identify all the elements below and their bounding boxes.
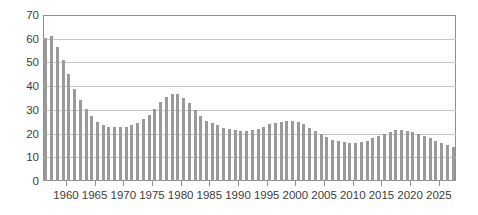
bar-2008 <box>343 142 346 181</box>
bar-1962 <box>79 100 82 181</box>
x-tick-1995 <box>267 181 268 186</box>
y-tick-label-60: 60 <box>5 32 39 46</box>
x-tick-2000 <box>295 181 296 186</box>
plot-area: 1960196519701975198019851990199520002005… <box>43 15 456 181</box>
bar-1963 <box>85 109 88 181</box>
bar-2009 <box>348 143 351 181</box>
x-tick-1970 <box>123 181 124 186</box>
x-tick-1985 <box>209 181 210 186</box>
y-tick-label-40: 40 <box>5 79 39 93</box>
x-tick-1975 <box>152 181 153 186</box>
bar-1990 <box>239 131 242 181</box>
bar-1987 <box>222 128 225 181</box>
bar-1981 <box>188 103 191 181</box>
bar-chart: 1960196519701975198019851990199520002005… <box>0 0 478 215</box>
bar-2019 <box>406 131 409 181</box>
x-tick-label-1960: 1960 <box>53 189 79 201</box>
bar-1961 <box>73 89 76 182</box>
bar-2001 <box>302 124 305 181</box>
gridline-40 <box>43 86 456 87</box>
bar-1999 <box>291 121 294 182</box>
bar-2022 <box>423 136 426 181</box>
gridline-30 <box>43 110 456 111</box>
x-tick-label-1985: 1985 <box>197 189 223 201</box>
bar-2005 <box>325 137 328 181</box>
y-tick-label-50: 50 <box>5 55 39 69</box>
bar-1970 <box>125 127 128 182</box>
bar-2018 <box>400 130 403 181</box>
bar-1998 <box>285 121 288 182</box>
bar-2026 <box>446 145 449 181</box>
bar-1959 <box>62 60 65 181</box>
x-tick-1965 <box>95 181 96 186</box>
bar-2011 <box>360 142 363 181</box>
x-tick-2025 <box>439 181 440 186</box>
x-tick-label-2005: 2005 <box>311 189 337 201</box>
bar-2012 <box>366 141 369 181</box>
bar-1982 <box>194 110 197 181</box>
x-tick-label-2020: 2020 <box>397 189 423 201</box>
x-tick-label-2000: 2000 <box>283 189 309 201</box>
bar-2003 <box>314 131 317 181</box>
bar-1985 <box>211 123 214 181</box>
bar-1971 <box>130 125 133 181</box>
bar-2027 <box>452 147 455 181</box>
bar-2016 <box>389 132 392 181</box>
x-tick-1960 <box>66 181 67 186</box>
bar-2015 <box>383 134 386 181</box>
bar-1964 <box>90 116 93 181</box>
x-tick-2020 <box>410 181 411 186</box>
y-tick-label-30: 30 <box>5 103 39 117</box>
bar-2010 <box>354 143 357 181</box>
bar-1993 <box>257 129 260 181</box>
bar-1972 <box>136 123 139 181</box>
bar-1966 <box>102 125 105 181</box>
bar-2021 <box>417 134 420 181</box>
bar-2004 <box>320 134 323 181</box>
bar-1984 <box>205 121 208 182</box>
x-tick-label-1990: 1990 <box>225 189 251 201</box>
bar-2007 <box>337 141 340 181</box>
bar-1983 <box>199 116 202 181</box>
bar-2025 <box>440 143 443 181</box>
gridline-50 <box>43 62 456 63</box>
x-tick-label-1980: 1980 <box>168 189 194 201</box>
bar-2023 <box>429 138 432 181</box>
x-tick-label-1970: 1970 <box>111 189 137 201</box>
bar-2000 <box>297 122 300 181</box>
bar-2024 <box>434 141 437 181</box>
bar-2014 <box>377 136 380 181</box>
bar-1968 <box>113 127 116 182</box>
x-tick-label-2010: 2010 <box>340 189 366 201</box>
bar-2002 <box>308 128 311 181</box>
y-tick-label-0: 0 <box>5 174 39 188</box>
bar-1975 <box>153 109 156 181</box>
bar-1988 <box>228 129 231 181</box>
x-tick-label-1975: 1975 <box>139 189 165 201</box>
x-tick-2005 <box>324 181 325 186</box>
y-tick-label-20: 20 <box>5 127 39 141</box>
bar-1965 <box>96 122 99 181</box>
bar-1986 <box>216 125 219 181</box>
bar-2013 <box>371 138 374 181</box>
bar-1957 <box>50 36 53 181</box>
x-tick-1980 <box>181 181 182 186</box>
bar-1976 <box>159 102 162 181</box>
gridline-60 <box>43 39 456 40</box>
bar-2006 <box>331 140 334 182</box>
bar-1994 <box>262 127 265 182</box>
x-tick-label-1995: 1995 <box>254 189 280 201</box>
x-tick-2015 <box>381 181 382 186</box>
bar-1967 <box>107 127 110 182</box>
bar-1960 <box>67 74 70 181</box>
x-tick-1990 <box>238 181 239 186</box>
x-tick-label-2015: 2015 <box>369 189 395 201</box>
y-tick-label-10: 10 <box>5 150 39 164</box>
bar-2020 <box>411 132 414 181</box>
x-tick-2010 <box>353 181 354 186</box>
bar-1978 <box>171 94 174 181</box>
x-tick-label-1965: 1965 <box>82 189 108 201</box>
bar-1991 <box>245 131 248 181</box>
bar-1996 <box>274 123 277 181</box>
bar-1956 <box>44 38 47 182</box>
